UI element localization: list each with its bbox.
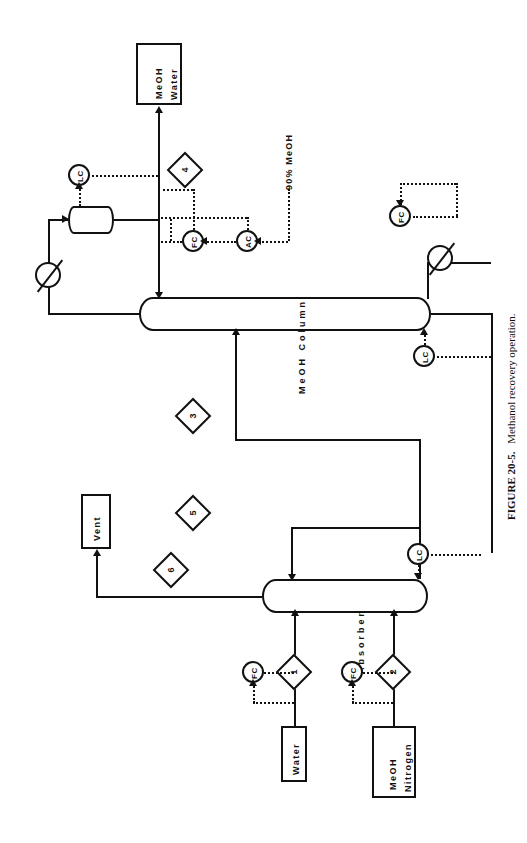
signal-lc-reflux-to-valve xyxy=(92,175,158,177)
fc-water-feed-tag: FC xyxy=(250,667,259,679)
figure-caption-text: Methanol recovery operation. xyxy=(505,313,517,443)
stream-diamond-3: 3 xyxy=(175,398,212,435)
line-column-vapor-to-condenser xyxy=(48,313,142,315)
arrow-fc-gas-signal xyxy=(348,679,356,686)
stream-diamond-4: 4 xyxy=(167,152,204,189)
arrow-fc-reboiler-signal xyxy=(396,200,404,207)
meoh-water-label-line2: Water xyxy=(169,68,179,100)
signal-fc-reboiler-top xyxy=(400,183,456,185)
signal-lc-column-across xyxy=(437,356,491,358)
signal-lc-reflux-down xyxy=(79,186,81,206)
arrow-lc-column-signal xyxy=(420,328,428,335)
instrument-lc-column-bottoms: LC xyxy=(413,345,435,367)
stream-box-meoh-nitrogen: MeOH Nitrogen xyxy=(372,726,416,798)
line-absorber-bottoms-across xyxy=(235,439,421,441)
signal-fc-gas-across xyxy=(363,672,393,674)
line-column-bottoms-down xyxy=(491,313,493,553)
signal-fc-water-bottom xyxy=(253,702,294,704)
signal-fc-reflux-drop xyxy=(170,219,172,241)
line-absorber-to-column xyxy=(235,331,237,441)
signal-fc-gas-bottom xyxy=(352,702,393,704)
condenser-slash xyxy=(37,260,63,293)
signal-fc-gas-down xyxy=(352,683,354,703)
line-product-to-column xyxy=(158,112,160,297)
vessel-reflux-drum xyxy=(68,206,114,234)
stream-diamond-6: 6 xyxy=(153,552,190,589)
figure-caption: FIGURE 20-5. Methanol recovery operation… xyxy=(505,313,517,520)
vent-label: Vent xyxy=(92,516,102,541)
signal-fc-to-reflux-line xyxy=(158,241,182,243)
fc-gas-feed-tag: FC xyxy=(349,667,358,679)
lc-column-bottoms-tag: LC xyxy=(421,351,430,363)
line-stream5-down xyxy=(291,527,293,579)
signal-fc-reboiler-across xyxy=(413,216,458,218)
arrow-purity-to-ac xyxy=(254,237,261,245)
ac-composition-tag: AC xyxy=(244,235,253,248)
signal-purity-to-ac xyxy=(258,241,288,243)
line-vent-riser xyxy=(96,555,98,596)
reboiler-slash xyxy=(429,243,455,276)
line-absorber-overhead xyxy=(96,596,262,598)
stream-box-vent: Vent xyxy=(81,494,111,549)
stream-5-number: 5 xyxy=(182,502,204,524)
stream-box-meoh-water: MeOH Water xyxy=(136,43,182,105)
vessel-absorber: Absorber xyxy=(262,579,428,613)
arrow-lc-absorber-signal xyxy=(414,573,422,580)
stream-4-number: 4 xyxy=(174,159,196,181)
line-reboiler-riser xyxy=(427,262,429,299)
vessel-meoh-column: MeOH Column xyxy=(139,297,431,331)
process-flow-diagram: MeOH Water 4 LC FC AC xyxy=(0,0,527,843)
signal-purity-riser xyxy=(288,189,290,241)
signal-fc-setpoint-across xyxy=(158,189,193,191)
instrument-lc-absorber-bottoms: LC xyxy=(407,543,429,565)
line-column-bottoms-out xyxy=(431,313,493,315)
arrow-into-column-bottom-feed xyxy=(232,328,240,335)
signal-fc-setpoint-down xyxy=(193,189,195,230)
instrument-fc-reboiler-steam: FC xyxy=(389,205,411,227)
arrow-lc-reflux-signal xyxy=(75,182,83,189)
stream-6-number: 6 xyxy=(160,559,182,581)
heat-exchanger-reboiler xyxy=(427,245,453,271)
arrow-gas-into-absorber xyxy=(390,609,398,616)
stream-box-water-feed: Water xyxy=(281,726,307,782)
arrow-water-into-absorber xyxy=(291,609,299,616)
signal-fc-water-down xyxy=(253,683,255,703)
annotation-purity: 90% MeOH xyxy=(284,134,294,190)
fc-reboiler-steam-tag: FC xyxy=(397,211,406,223)
signal-lc-absorber-across xyxy=(431,554,481,556)
meoh-nitrogen-label-line2: Nitrogen xyxy=(403,743,413,792)
line-drum-outlet xyxy=(114,219,159,221)
signal-fc-water-across xyxy=(264,672,294,674)
figure-number: FIGURE 20-5. xyxy=(505,452,517,520)
fc-reflux-tag: FC xyxy=(190,236,199,248)
heat-exchanger-condenser xyxy=(35,262,61,288)
signal-ac-branch-down xyxy=(247,217,249,230)
meoh-column-label: MeOH Column xyxy=(297,299,307,394)
water-feed-label: Water xyxy=(291,743,301,775)
lc-absorber-bottoms-tag: LC xyxy=(415,549,424,561)
stream-3-number: 3 xyxy=(182,405,204,427)
arrow-fc-water-signal xyxy=(249,679,257,686)
signal-ac-to-fc xyxy=(204,241,236,243)
signal-fc-reboiler-up xyxy=(456,183,458,216)
meoh-water-label-line1: MeOH xyxy=(154,67,164,99)
arrow-into-vent-box xyxy=(93,549,101,556)
arrow-into-drum xyxy=(62,215,69,223)
meoh-nitrogen-label-line1: MeOH xyxy=(388,758,398,790)
lc-reflux-drum-tag: LC xyxy=(76,170,85,182)
line-stream5-across xyxy=(291,527,419,529)
arrow-ac-to-fc xyxy=(200,237,207,245)
stream-diamond-5: 5 xyxy=(175,495,212,532)
arrow-to-product-box xyxy=(155,106,163,113)
